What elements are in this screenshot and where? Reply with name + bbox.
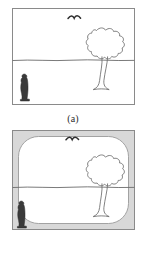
panel-b-scene	[0, 125, 146, 245]
panel-a-scene	[0, 0, 146, 112]
panel-a-caption: (a)	[0, 114, 146, 124]
panel-b: (b)	[0, 125, 146, 262]
panel-a: (a)	[0, 0, 146, 131]
figure-container: (a) (b)	[0, 0, 146, 262]
